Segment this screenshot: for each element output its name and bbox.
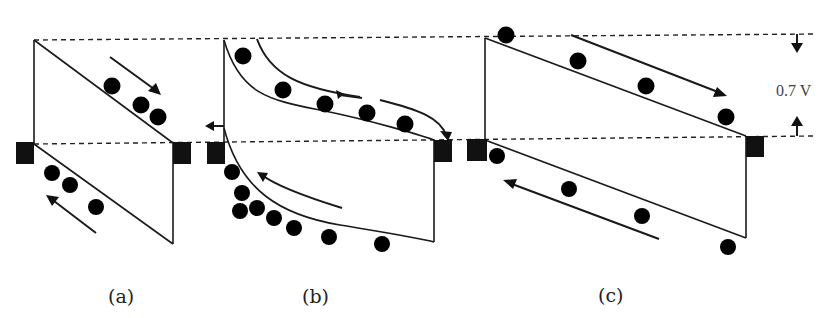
hole-icon: [232, 203, 248, 219]
hole-icon: [321, 229, 337, 245]
caption-a: (a): [108, 285, 134, 307]
panel-b: [205, 39, 452, 252]
hole-icon: [44, 165, 60, 181]
hole-icon: [234, 185, 250, 201]
electron-icon: [235, 48, 252, 65]
hole-icon: [266, 210, 282, 226]
hole-icon: [88, 199, 104, 215]
electron-icon: [359, 105, 376, 122]
electron-icon: [638, 78, 655, 95]
hole-icon: [720, 239, 736, 255]
hole-icon: [634, 208, 650, 224]
panel-a-valence-band: [34, 144, 173, 244]
panel-b-hole-arrow: [257, 172, 342, 208]
electron-icon: [718, 109, 735, 126]
panel-b-right-contact: [434, 140, 452, 162]
hole-icon: [249, 200, 265, 216]
panel-c-left-contact: [467, 139, 487, 161]
voltage-label: 0.7 V: [776, 82, 812, 99]
caption-b: (b): [302, 285, 329, 307]
panel-a-right-contact: [173, 142, 191, 164]
electron-icon: [133, 97, 150, 114]
panel-a-hole-arrow: [46, 195, 96, 233]
electron-icon: [570, 53, 587, 70]
pn-junction-band-diagram: 0.7 V (a) (b) (c): [0, 0, 833, 318]
voltage-up-arrow: [791, 116, 803, 136]
panel-c: 0.7 V: [467, 27, 812, 256]
panel-b-left-contact: [207, 142, 225, 164]
hole-icon: [286, 220, 302, 236]
electron-icon: [275, 82, 292, 99]
electron-icon: [397, 116, 414, 133]
electron-icon: [150, 109, 167, 126]
hole-icon: [561, 181, 577, 197]
electron-icon: [104, 78, 121, 95]
upper-reference-line: [34, 34, 815, 40]
hole-icon: [62, 177, 78, 193]
panel-c-right-contact: [746, 136, 764, 157]
hole-icon: [224, 164, 240, 180]
panel-c-hole-arrow: [503, 179, 659, 239]
voltage-down-arrow: [791, 34, 803, 53]
electron-icon: [317, 96, 334, 113]
panel-b-valence-band: [224, 128, 434, 242]
panel-b-left-arrow: [205, 121, 224, 131]
hole-icon: [374, 236, 390, 252]
caption-c: (c): [598, 284, 623, 306]
electron-icon: [498, 27, 515, 44]
hole-icon: [489, 148, 505, 164]
panel-a-left-contact: [16, 142, 34, 164]
